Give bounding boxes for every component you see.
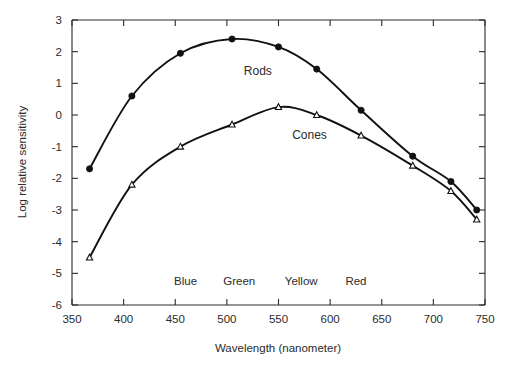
data-point-rods <box>358 107 364 113</box>
y-axis-tick-labels: 3210-1-2-3-4-5-6 <box>52 14 63 311</box>
x-tick-label: 550 <box>269 313 288 325</box>
data-point-cones <box>229 121 235 127</box>
y-axis-title: Log relative sensitivity <box>16 106 28 219</box>
data-point-rods <box>177 50 183 56</box>
data-point-rods <box>229 36 235 42</box>
series-label-rods: Rods <box>244 64 272 78</box>
data-point-rods <box>410 153 416 159</box>
series-markers <box>86 36 479 260</box>
data-point-rods <box>474 207 480 213</box>
y-tick-label: 0 <box>56 109 62 121</box>
data-point-rods <box>275 44 281 50</box>
series-curves <box>90 39 477 258</box>
x-tick-label: 450 <box>166 313 185 325</box>
color-band-labels: BlueGreenYellowRed <box>174 275 366 287</box>
y-tick-label: 2 <box>56 46 62 58</box>
y-tick-label: -1 <box>52 141 62 153</box>
band-label-green: Green <box>223 275 255 287</box>
series-label-cones: Cones <box>292 128 327 142</box>
y-tick-label: 3 <box>56 14 62 26</box>
spectral-sensitivity-chart: 3210-1-2-3-4-5-6 35040045050055060065070… <box>0 0 507 369</box>
band-label-yellow: Yellow <box>285 275 319 287</box>
x-tick-label: 350 <box>62 313 81 325</box>
data-point-cones <box>358 132 364 138</box>
data-point-cones <box>314 112 320 118</box>
data-point-cones <box>275 104 281 110</box>
band-label-blue: Blue <box>174 275 197 287</box>
x-tick-label: 500 <box>217 313 236 325</box>
y-tick-label: -4 <box>52 236 63 248</box>
data-point-cones <box>177 143 183 149</box>
chart-figure: 3210-1-2-3-4-5-6 35040045050055060065070… <box>0 0 507 369</box>
x-axis-title: Wavelength (nanometer) <box>215 342 341 354</box>
x-tick-label: 600 <box>321 313 340 325</box>
y-tick-label: 1 <box>56 77 62 89</box>
curve-cones <box>90 107 477 258</box>
curve-rods <box>90 39 477 210</box>
x-tick-label: 400 <box>114 313 133 325</box>
x-axis-tick-labels: 350400450500550600650700750 <box>62 313 494 325</box>
data-point-rods <box>314 66 320 72</box>
y-tick-label: -3 <box>52 204 62 216</box>
x-tick-label: 700 <box>424 313 443 325</box>
x-tick-label: 750 <box>475 313 494 325</box>
data-point-rods <box>129 93 135 99</box>
series-annotations: RodsCones <box>244 64 327 141</box>
data-point-rods <box>86 166 92 172</box>
data-point-cones <box>410 162 416 168</box>
data-point-rods <box>448 178 454 184</box>
band-label-red: Red <box>345 275 366 287</box>
y-tick-label: -6 <box>52 299 62 311</box>
y-tick-label: -5 <box>52 267 62 279</box>
y-tick-label: -2 <box>52 172 62 184</box>
x-tick-label: 650 <box>372 313 391 325</box>
